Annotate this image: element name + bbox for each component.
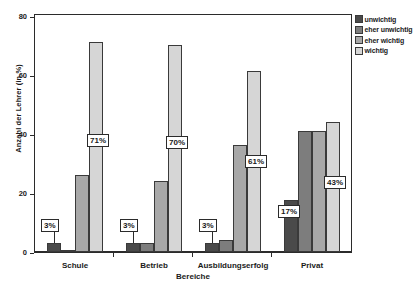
legend-label-eher-unwichtig: eher unwichtig — [365, 26, 413, 33]
legend-item-wichtig: wichtig — [355, 46, 419, 56]
bar-ausbildungserfolg-eher-unwichtig — [219, 240, 233, 252]
value-label-betrieb-wichtig: 70% — [166, 136, 188, 149]
y-tick-label-20: 20 — [19, 189, 27, 198]
y-axis-title: Anzahl der Lehrer (in %) — [14, 39, 23, 179]
legend-label-unwichtig: unwichtig — [365, 16, 397, 23]
value-label-betrieb-unwichtig: 3% — [120, 219, 138, 232]
bar-schule-eher-unwichtig — [61, 250, 75, 252]
y-tick-label-60: 60 — [19, 71, 27, 80]
value-label-ausbildungserfolg-unwichtig: 3% — [199, 219, 217, 232]
x-tick-sep-1 — [113, 252, 114, 257]
legend-item-eher-wichtig: eher wichtig — [355, 35, 419, 45]
leader-schule-unwichtig — [54, 232, 55, 243]
bar-privat-eher-unwichtig — [298, 131, 312, 252]
legend-swatch-eher-unwichtig — [355, 26, 363, 34]
legend-label-eher-wichtig: eher wichtig — [365, 37, 405, 44]
legend-swatch-eher-wichtig — [355, 36, 363, 44]
value-label-ausbildungserfolg-wichtig: 61% — [245, 155, 267, 168]
legend-label-wichtig: wichtig — [365, 47, 388, 54]
value-label-schule-unwichtig: 3% — [41, 219, 59, 232]
bar-betrieb-eher-wichtig — [154, 181, 168, 252]
bar-schule-eher-wichtig — [75, 175, 89, 252]
x-category-label-privat: Privat — [252, 261, 372, 270]
x-tick-sep-3 — [271, 252, 272, 257]
bar-betrieb-eher-unwichtig — [140, 243, 154, 252]
bar-betrieb-unwichtig — [126, 243, 140, 252]
x-axis-title: Bereiche — [34, 272, 352, 281]
value-label-privat-unwichtig: 17% — [278, 205, 300, 218]
value-label-privat-wichtig: 43% — [324, 176, 346, 189]
legend-swatch-unwichtig — [355, 15, 363, 23]
bar-schule-unwichtig — [47, 243, 61, 252]
leader-betrieb-unwichtig — [133, 232, 134, 243]
legend-item-eher-unwichtig: eher unwichtig — [355, 25, 419, 35]
value-label-schule-wichtig: 71% — [87, 134, 109, 147]
leader-ausbildungserfolg-unwichtig — [212, 232, 213, 243]
y-tick-label-80: 80 — [19, 12, 27, 21]
bar-schule-wichtig — [89, 42, 103, 252]
y-tick-label-40: 40 — [19, 130, 27, 139]
bar-privat-eher-wichtig — [312, 131, 326, 252]
plot-area: Schule Betrieb Ausbildungserfolg Pri — [35, 15, 351, 252]
bar-ausbildungserfolg-unwichtig — [205, 243, 219, 252]
bar-chart: Anzahl der Lehrer (in %) 0 20 40 60 80 S… — [0, 0, 419, 286]
legend-swatch-wichtig — [355, 47, 363, 55]
y-tick-mark-0 — [30, 253, 34, 254]
bar-group-ausbildungserfolg: Ausbildungserfolg — [193, 15, 272, 252]
bar-group-betrieb: Betrieb — [114, 15, 193, 252]
legend-item-unwichtig: unwichtig — [355, 14, 419, 24]
x-tick-sep-2 — [192, 252, 193, 257]
chart-legend: unwichtig eher unwichtig eher wichtig wi… — [355, 14, 419, 56]
y-tick-label-0: 0 — [23, 248, 27, 257]
